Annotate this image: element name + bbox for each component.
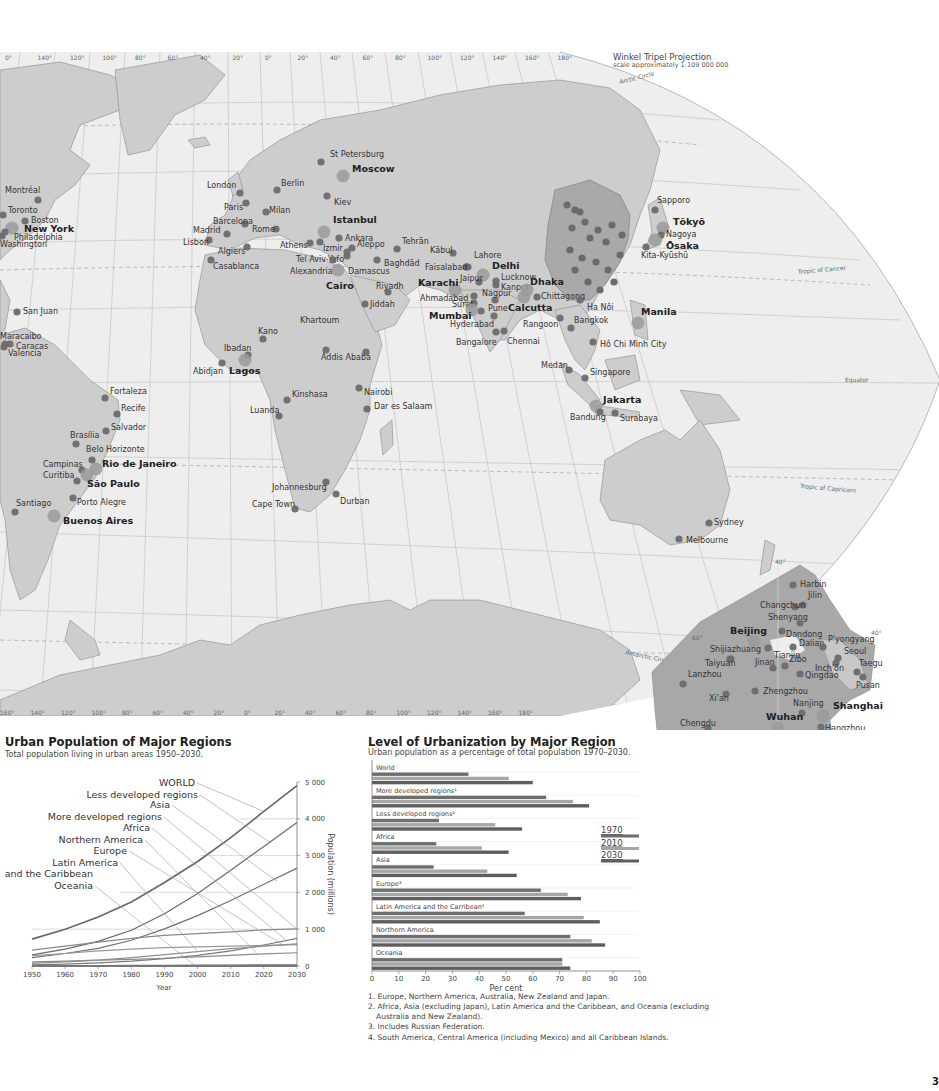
lon-label: 40° [305,709,316,716]
bar-chart-title: Level of Urbanization by Major Region [368,735,616,749]
lon-label: 120° [70,54,84,61]
lon-label: 120° [460,54,474,61]
city-label: Shanghai [833,700,883,711]
y-tick-label: 1 000 [305,926,325,934]
city-label: Fortaleza [110,387,147,396]
city-marker: Faisalabad [425,263,470,272]
city-label: Ha Nôi [587,302,614,312]
city-dot [632,317,645,330]
lon-label: 0° [265,54,272,61]
city-label: Lagos [229,365,261,376]
city-label: Seoul [844,647,866,656]
city-label: St Petersburg [330,150,384,159]
city-label: Harbin [800,580,827,589]
city-label: Buenos Aires [63,515,133,526]
city-label: Toronto [7,206,38,215]
bar [372,920,600,923]
city-label: London [207,181,236,190]
city-label: Chengdu [680,719,716,728]
city-dot [273,186,280,193]
urbanization-bar-chart: WorldMore developed regions¹Less develop… [360,758,660,998]
city-dot [533,293,540,300]
city-label: Jakarta [602,394,641,405]
city-marker: Hangzhou [817,723,865,730]
city-label: Changchun [760,601,805,610]
city-dot [581,218,588,225]
city-label: Nagpur [482,289,512,298]
bar-group: Africa [372,833,638,854]
city-dot [492,281,499,288]
city-dot [853,668,860,675]
bar [372,874,517,877]
city-dot [113,410,120,417]
city-dot [602,238,609,245]
series-label: More developed regions [48,811,162,822]
city-label: Alexandria [290,267,333,276]
city-dot [259,335,266,342]
city-label: Belo Horizonte [86,445,145,454]
bar [372,897,581,900]
bar [372,777,509,780]
lon-label: 80° [135,54,146,61]
lon-label: 120° [61,709,75,716]
city-label: Zibo [789,655,807,664]
lon-label: 20° [275,709,286,716]
lon-label: 100° [428,54,442,61]
city-label: Medan [541,361,568,370]
city-label: Chennai [507,337,540,346]
city-label: Milan [269,206,290,215]
city-label: Riyadh [376,282,404,291]
city-dot [789,581,796,588]
bar [372,846,482,849]
bar-group: Northern America [372,926,638,947]
bar-category-label: Latin America and the Carribean⁴ [376,903,485,911]
city-dot [101,394,108,401]
city-label: Calcutta [508,302,553,313]
city-dot [563,201,570,208]
city-dot [223,230,230,237]
city-label: Tehrān [401,237,429,246]
bar [372,781,533,784]
city-label: Abidjan [193,367,223,376]
city-dot [343,252,350,259]
city-dot [470,292,477,299]
city-dot [88,456,95,463]
x-tick-label: 1960 [56,971,74,979]
legend-label: 2010 [601,838,623,848]
bar [372,865,434,868]
bar [372,939,592,942]
x-tick-label: 50 [502,975,511,983]
city-dot [332,490,339,497]
city-dot [781,662,788,669]
city-label: Surabaya [620,414,658,423]
city-label: Izmir [323,244,344,253]
line-chart-subtitle: Total population living in urban areas 1… [5,750,203,759]
city-dot [11,508,18,515]
city-dot [610,278,617,285]
city-dot [332,264,345,277]
world-urban-map: Arctic Circle Tropic of Cancer Equator T… [0,0,939,730]
city-dot [361,300,368,307]
city-label: Pusan [856,681,880,690]
city-label: Jinan [754,658,775,667]
city-dot [323,192,330,199]
city-dot [69,494,76,501]
city-dot [604,266,611,273]
equator-label: Equator [845,376,869,384]
city-label: Algiers [218,247,245,256]
city-marker: Changchun [760,601,805,611]
lon-label: 20° [233,54,244,61]
city-label: Ōsaka [666,240,699,251]
x-tick-label: 1980 [122,971,140,979]
lon-label: 40° [330,54,341,61]
city-label: Hô Chi Minh City [600,339,667,349]
city-label: Cape Town [252,500,295,509]
lon-label: 0° [244,709,251,716]
city-dot [337,170,350,183]
city-label: Damascus [348,267,390,276]
city-label: Sydney [714,518,744,527]
city-dot [567,324,574,331]
city-dot [576,208,583,215]
lon-label: 100° [397,709,411,716]
x-tick-label: 2000 [189,971,207,979]
